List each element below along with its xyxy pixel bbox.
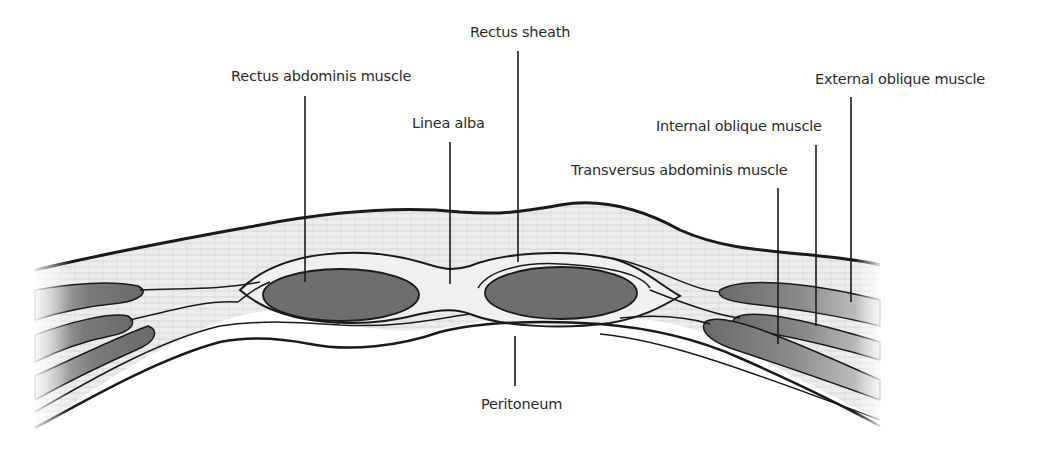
- label-external-oblique: External oblique muscle: [815, 71, 985, 87]
- rectus-abdominis-left: [263, 269, 419, 321]
- label-peritoneum: Peritoneum: [481, 396, 562, 412]
- label-linea-alba: Linea alba: [412, 115, 485, 131]
- fade-left: [30, 240, 70, 440]
- label-rectus-sheath: Rectus sheath: [470, 24, 570, 40]
- fade-right: [855, 240, 885, 440]
- label-rectus-abdominis: Rectus abdominis muscle: [231, 68, 411, 84]
- label-transversus-abdominis: Transversus abdominis muscle: [571, 162, 788, 178]
- abdominal-wall-cross-section: [0, 0, 1040, 456]
- label-internal-oblique: Internal oblique muscle: [656, 118, 822, 134]
- rectus-abdominis-right: [485, 267, 637, 319]
